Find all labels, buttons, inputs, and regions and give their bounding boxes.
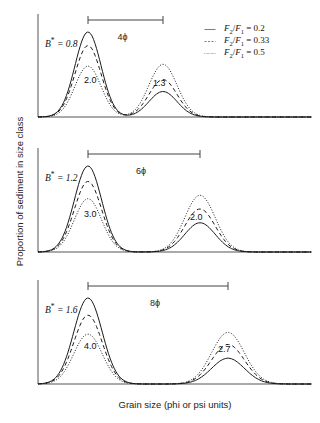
distribution-curve-dotted — [38, 332, 311, 384]
panel-b-star-label: B* = 1.6 — [45, 302, 78, 315]
figure-root: Proportion of sediment in size class Gra… — [0, 0, 320, 423]
distribution-curve-dashed — [38, 315, 311, 384]
distribution-curve-solid — [38, 298, 311, 384]
peak1-value-label: 4.0 — [84, 341, 97, 351]
chart-panel-3: B* = 1.68ϕ4.02.7 — [0, 0, 320, 423]
panel-plot-area — [0, 0, 320, 423]
mode-spacing-bracket — [88, 282, 228, 290]
mode-spacing-label: 8ϕ — [150, 298, 160, 308]
peak2-value-label: 2.7 — [218, 344, 231, 354]
